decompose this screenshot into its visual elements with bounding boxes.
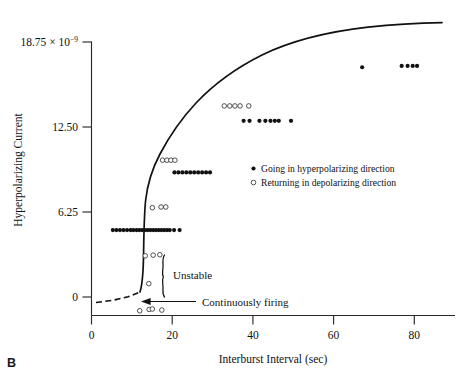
legend-label-going: Going in hyperpolarizing direction [261,163,395,174]
data-point [150,307,155,312]
curve-main [140,23,442,292]
y-axis-title: Hyperpolarizing Current [12,113,25,227]
data-point [222,104,227,109]
data-point [246,104,251,109]
data-point [200,170,204,174]
x-axis-title: Interburst Interval (sec) [219,353,328,366]
data-point [150,205,155,210]
continuously-firing-arrow [141,298,196,305]
data-point [137,308,142,313]
data-point [233,104,238,109]
data-point [247,119,251,123]
unstable-annotation-label: Unstable [173,269,212,281]
chart-svg: 18.75 × 10−9 12.50 6.25 0 0 20 40 60 80 … [0,0,463,379]
data-point [168,228,172,232]
data-point [176,170,180,174]
chart-legend: Going in hyperpolarizing direction Retur… [251,163,396,188]
data-point [268,119,272,123]
data-point [263,119,267,123]
figure-panel-b: 18.75 × 10−9 12.50 6.25 0 0 20 40 60 80 … [0,0,463,379]
data-point [360,65,364,69]
unstable-brace [162,255,164,297]
data-point [131,228,135,232]
series-going-hyperpolarizing [111,64,419,232]
data-point [196,170,200,174]
data-point [163,205,168,210]
data-point [160,158,165,163]
data-point [160,308,165,313]
ytick-label-0: 0 [72,291,78,303]
data-point [227,104,232,109]
data-point [289,119,293,123]
data-point [415,64,419,68]
y-axis [83,42,92,316]
data-point [257,119,261,123]
data-point [180,170,184,174]
data-point [400,64,404,68]
xtick-label-0: 0 [89,329,95,341]
data-point [172,170,176,174]
data-point [411,64,415,68]
data-point [178,228,182,232]
data-point [158,252,163,257]
data-point [143,254,148,259]
xtick-label-40: 40 [247,329,259,341]
data-point [273,119,277,123]
legend-marker-open-circle [251,180,256,185]
data-point [151,253,156,258]
x-axis [92,316,456,325]
continuously-firing-annotation-label: Continuously firing [202,296,289,308]
data-point [159,205,164,210]
ytick-label-18-75: 18.75 × 10−9 [20,35,78,48]
xtick-label-80: 80 [409,329,421,341]
data-point [242,119,246,123]
curve-dashed-segment [96,292,140,303]
data-point [208,170,212,174]
legend-marker-filled-circle [251,166,255,170]
data-point [405,64,409,68]
legend-label-returning: Returning in depolarizing direction [261,177,396,188]
data-point [277,119,281,123]
data-point [184,170,188,174]
data-point [173,158,178,163]
ytick-label-6-25: 6.25 [58,206,78,218]
ytick-label-12-50: 12.50 [52,121,78,133]
data-point [172,228,176,232]
series-returning-depolarizing [137,104,251,313]
data-point [204,170,208,174]
data-point [192,170,196,174]
data-point [146,281,151,286]
xtick-label-20: 20 [166,329,178,341]
data-point [188,170,192,174]
xtick-label-60: 60 [328,329,340,341]
panel-label-b: B [7,356,16,370]
data-point [238,104,243,109]
